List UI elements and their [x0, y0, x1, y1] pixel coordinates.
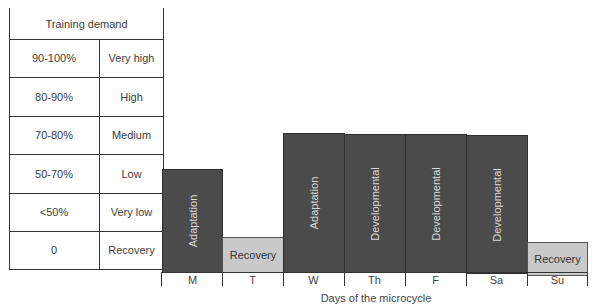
bar-label: Developmental: [430, 167, 442, 240]
bar-label: Developmental: [491, 168, 503, 241]
bar-wednesday: Adaptation: [283, 133, 345, 273]
day-label-wednesday: W: [283, 274, 344, 286]
day-label-saturday: Sa: [466, 274, 527, 286]
bar-label: Developmental: [369, 167, 381, 240]
range-cell: 70-80%: [9, 116, 99, 154]
bar-monday: Adaptation: [162, 169, 223, 273]
level-cell: Very low: [99, 193, 164, 231]
level-cell: Low: [99, 154, 164, 193]
day-label-thursday: Th: [344, 274, 405, 286]
level-cell: Recovery: [99, 231, 164, 269]
bar-label: Adaptation: [308, 177, 320, 230]
range-cell: 0: [9, 231, 99, 269]
bar-sunday: Recovery: [527, 242, 588, 276]
range-cell: <50%: [9, 193, 99, 231]
level-cell: Very high: [99, 39, 164, 77]
table-header: Training demand: [9, 8, 164, 39]
table-bottom-border: [9, 269, 164, 270]
bar-tuesday: Recovery: [222, 237, 284, 273]
day-label-tuesday: T: [222, 274, 283, 286]
day-label-sunday: Su: [527, 274, 588, 286]
bar-friday: Developmental: [405, 134, 467, 273]
bar-thursday: Developmental: [344, 134, 406, 273]
day-label-monday: M: [162, 274, 223, 286]
range-cell: 80-90%: [9, 77, 99, 116]
level-cell: High: [99, 77, 164, 116]
range-cell: 90-100%: [9, 39, 99, 77]
bar-label: Recovery: [223, 249, 283, 261]
x-axis-title: Days of the microcycle: [300, 292, 452, 304]
level-cell: Medium: [99, 116, 164, 154]
day-label-friday: F: [405, 274, 466, 286]
bar-saturday: Developmental: [466, 135, 528, 274]
bar-label: Recovery: [528, 253, 587, 265]
training-demand-table: Training demand 90-100% Very high 80-90%…: [9, 8, 164, 270]
bar-label: Adaptation: [187, 195, 199, 248]
range-cell: 50-70%: [9, 154, 99, 193]
